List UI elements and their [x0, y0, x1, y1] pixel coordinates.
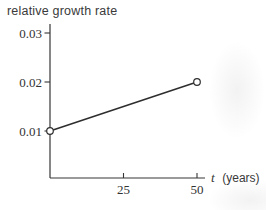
x-tick-label: 25 [117, 182, 130, 197]
plot-area: t (years) 0.010.020.032550 [0, 0, 266, 210]
x-axis-label: t (years) [211, 168, 260, 185]
data-point-marker [194, 79, 201, 86]
y-tick-label: 0.02 [19, 75, 42, 90]
x-axis-variable: t [211, 170, 216, 185]
data-point-marker [47, 128, 54, 135]
growth-rate-chart: relative growth rate t (years) 0.010.020… [0, 0, 266, 210]
data-line [50, 82, 197, 131]
y-tick-label: 0.03 [19, 26, 42, 41]
x-axis-unit: (years) [222, 171, 259, 185]
y-tick-label: 0.01 [19, 124, 42, 139]
x-tick-label: 50 [191, 182, 204, 197]
